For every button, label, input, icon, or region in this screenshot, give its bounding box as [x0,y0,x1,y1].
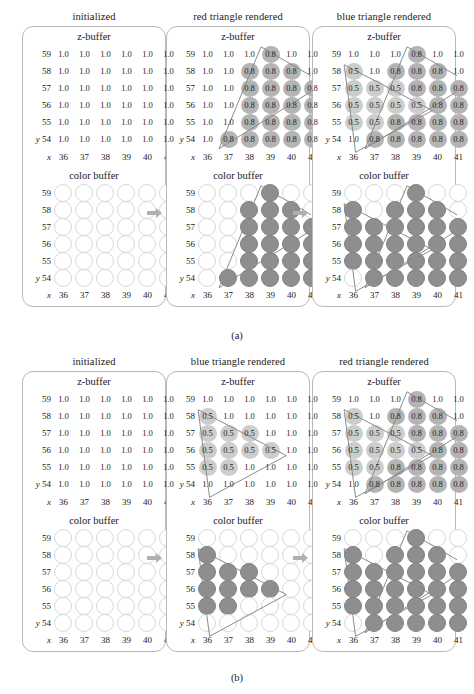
z-buffer-cell: 1.0 [137,131,158,148]
z-buffer-value: 1.0 [142,479,153,489]
z-buffer-grid: 591.01.01.01.01.01.0581.01.01.01.01.01.0… [23,389,167,514]
z-buffer-value: 1.0 [202,83,213,93]
z-buffer-value: 0.8 [390,479,401,489]
z-buffer-value: 1.0 [265,428,276,438]
buffer-panel: z-buffer591.01.01.00.81.01.0580.51.00.80… [312,26,456,307]
triangle-outline-overlay [167,528,311,646]
color-buffer-pixel-empty [96,580,114,598]
z-buffer-value: 1.0 [307,479,318,489]
color-buffer-pixel-empty [138,269,156,287]
z-buffer-value: 1.0 [79,66,90,76]
z-buffer-value: 0.5 [348,445,359,455]
z-buffer-cell: 1.0 [116,97,137,114]
z-buffer-value: 0.5 [202,411,213,421]
z-buffer-cell: 1.0 [95,80,116,97]
z-buffer-value: 1.0 [79,479,90,489]
y-tick-label: 58 [25,408,51,425]
x-tick-label: 36 [197,633,218,648]
z-buffer-value: 0.5 [348,428,359,438]
z-buffer-value: 1.0 [307,445,318,455]
x-tick-label: 38 [239,288,260,303]
z-buffer-value: 1.0 [100,479,111,489]
z-buffer-value: 1.0 [142,117,153,127]
z-buffer-value: 0.8 [411,428,422,438]
z-buffer-value: 1.0 [202,479,213,489]
z-buffer-value: 0.8 [453,462,464,472]
z-buffer-value: 0.8 [307,100,318,110]
color-buffer-pixel-empty [54,201,72,219]
z-buffer-cell: 1.0 [116,459,137,476]
x-tick-label: 37 [218,150,239,165]
color-buffer-pixel-empty [75,269,93,287]
color-buffer-pixel-empty [138,529,156,547]
z-buffer-value: 0.5 [390,83,401,93]
x-axis-label: x [171,288,195,303]
z-buffer-value: 1.0 [121,445,132,455]
z-buffer-value: 1.0 [286,428,297,438]
z-buffer-value: 1.0 [142,66,153,76]
color-buffer-pixel-empty [54,184,72,202]
z-buffer-cell: 1.0 [53,46,74,63]
x-tick-label: 39 [260,288,281,303]
z-buffer-title: z-buffer [23,375,165,389]
z-buffer-cell: 1.0 [116,476,137,493]
color-buffer-pixel-empty [96,252,114,270]
z-buffer-value: 1.0 [58,83,69,93]
x-tick-label: 41 [448,150,469,165]
z-buffer-value: 1.0 [244,479,255,489]
z-buffer-value: 0.5 [348,83,359,93]
color-buffer-row: 56 [23,236,167,253]
z-buffer-value: 0.8 [307,134,318,144]
x-tick-label: 40 [427,633,448,648]
color-buffer-row: 55 [23,253,167,270]
y-tick-label: y 54 [25,131,51,148]
z-buffer-value: 1.0 [307,49,318,59]
z-buffer-value: 1.0 [265,479,276,489]
color-buffer-pixel-empty [96,184,114,202]
y-tick-label: 56 [25,97,51,114]
color-buffer-pixel-empty [75,235,93,253]
z-buffer-cell: 1.0 [95,131,116,148]
panel-heading: blue triangle rendered [312,10,456,23]
z-buffer-value: 0.8 [286,66,297,76]
z-buffer-value: 0.8 [411,83,422,93]
z-buffer-value: 1.0 [223,411,234,421]
z-buffer-value: 0.8 [453,117,464,127]
z-buffer-value: 0.5 [369,445,380,455]
z-buffer-cell: 1.0 [74,63,95,80]
z-buffer-cell: 1.0 [95,476,116,493]
z-buffer-value: 1.0 [121,134,132,144]
z-buffer-value: 1.0 [163,462,174,472]
color-buffer-pixel-empty [138,614,156,632]
color-buffer-grid: 5958575655y 54x363738394041 [167,528,311,646]
z-buffer-cell: 1.0 [53,442,74,459]
y-tick-label: 59 [25,391,51,408]
x-tick-label: 39 [406,495,427,510]
color-buffer-pixel-empty [96,529,114,547]
z-buffer-value: 0.8 [265,100,276,110]
x-tick-label: 40 [281,288,302,303]
y-tick-label: 57 [25,425,51,442]
z-buffer-value: 1.0 [121,100,132,110]
z-buffer-value: 1.0 [121,66,132,76]
y-tick-label: 58 [25,63,51,80]
color-buffer-pixel-empty [75,201,93,219]
z-buffer-value: 0.5 [202,445,213,455]
z-buffer-value: 1.0 [453,66,464,76]
color-buffer-pixel-empty [54,614,72,632]
z-buffer-value: 1.0 [100,411,111,421]
z-buffer-cell: 1.0 [137,425,158,442]
color-buffer-pixel-empty [54,269,72,287]
z-buffer-value: 1.0 [79,134,90,144]
z-buffer-cell: 1.0 [137,63,158,80]
panel-column-b1: blue triangle renderedz-buffer591.01.01.… [166,355,310,652]
x-tick-label: 36 [197,288,218,303]
color-buffer-title: color buffer [167,169,309,183]
z-buffer-cell: 1.0 [137,114,158,131]
color-buffer-title: color buffer [313,514,455,528]
blue-triangle-outline [198,549,286,637]
x-tick-label: 37 [364,288,385,303]
y-tick-label: 57 [25,80,51,97]
z-buffer-value: 1.0 [163,100,174,110]
color-buffer-pixel-empty [117,580,135,598]
